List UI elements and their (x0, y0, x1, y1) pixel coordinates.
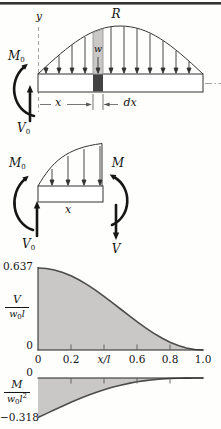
moment-min-value-label: −0.318 (0, 412, 33, 423)
load-curve (38, 26, 203, 74)
fbd-moment-m-arc (112, 177, 127, 225)
beam-strip-element (93, 75, 103, 92)
shear-fraction-numerator: V (13, 294, 21, 305)
resultant-label: R (108, 8, 124, 20)
dx-dim-arrowhead (104, 103, 110, 107)
shear-zero-label: 0 (22, 340, 33, 351)
fbd-load-arrows (50, 146, 102, 185)
top-rule (0, 2, 221, 5)
reaction-arrows (14, 67, 34, 121)
x-tick-label-08: 0.8 (157, 354, 183, 365)
x-tick-label-02: 0.2 (58, 354, 84, 365)
x-dimension-label: x (51, 97, 65, 108)
shear-axis-fraction-label: V w0l (3, 294, 31, 319)
top-moment-m0-label: M0 (8, 50, 25, 62)
fbd-shear-v0-label: V0 (22, 238, 35, 250)
shear-v0-arrowhead (27, 85, 33, 93)
fbd-x-dimension-label: x (61, 204, 75, 215)
shear-fraction-denominator: w0l (9, 309, 25, 319)
fbd-moment-m-label: M (110, 157, 126, 169)
x-tick-label-06: 0.6 (124, 354, 150, 365)
figure-canvas (0, 0, 221, 429)
fbd-beam-body (38, 186, 103, 202)
fbd-v-arrowhead (113, 233, 119, 241)
fbd-moment-m0-label: M0 (9, 157, 26, 169)
moment-chart-plot (38, 378, 203, 418)
x-axis-title: x/l (91, 354, 117, 365)
moment-zero-label: 0 (22, 367, 33, 378)
y-axis-label: y (33, 11, 45, 22)
top-shear-v0-label: V0 (17, 122, 30, 134)
load-intensity-label: w (92, 44, 104, 54)
x-tick-label-0: 0 (25, 354, 51, 365)
shear-chart-plot (38, 268, 203, 350)
dx-dimension-label: dx (118, 97, 142, 108)
x-dim-arrowhead (86, 103, 92, 107)
x-tick-label-10: 1.0 (190, 354, 216, 365)
fbd-moment-m0-arc (14, 179, 33, 230)
fbd-shear-v-label: V (108, 243, 124, 255)
moment-fraction-numerator: M (11, 379, 22, 390)
beam-body (38, 74, 203, 92)
moment-fraction-denominator: w0l2 (7, 394, 27, 404)
shear-max-value-label: 0.637 (1, 261, 33, 272)
moment-axis-fraction-label: M w0l2 (2, 379, 32, 404)
beam-load-shear-moment-figure: y R M0 V0 w x dx M0 M V0 V x 0.637 V w0l… (0, 0, 221, 429)
